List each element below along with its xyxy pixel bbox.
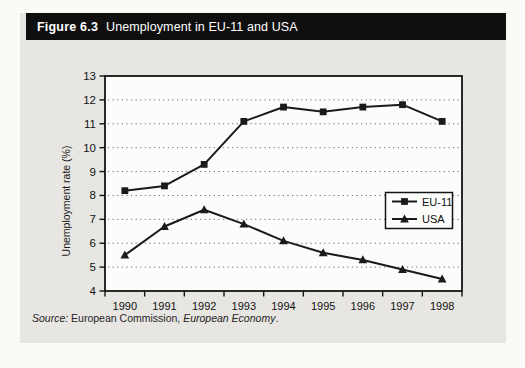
square-marker [280, 104, 287, 111]
square-marker [439, 118, 446, 125]
square-marker [401, 198, 408, 205]
square-marker [359, 104, 366, 111]
x-tick-label: 1990 [113, 300, 137, 312]
x-tick-label: 1992 [192, 300, 216, 312]
x-tick-label: 1998 [430, 300, 454, 312]
figure-panel: Figure 6.3 Unemployment in EU-11 and USA… [20, 13, 506, 343]
y-axis: 45678910111213 [83, 70, 105, 297]
y-tick-label: 6 [90, 237, 96, 249]
y-tick-label: 8 [90, 189, 96, 201]
source-journal: European Economy [183, 312, 275, 324]
legend-label: EU-11 [422, 196, 452, 208]
legend-label: USA [422, 213, 445, 225]
page: Figure 6.3 Unemployment in EU-11 and USA… [0, 0, 525, 368]
x-tick-label: 1996 [351, 300, 375, 312]
source-prefix: Source: [32, 312, 68, 324]
y-tick-label: 7 [90, 213, 96, 225]
chart-area: 4567891011121319901991199219931994199519… [20, 40, 506, 316]
source-note: Source: European Commission, European Ec… [32, 312, 278, 324]
square-marker [161, 182, 168, 189]
square-marker [399, 101, 406, 108]
x-axis: 199019911992199319941995199619971998 [105, 291, 462, 312]
y-tick-label: 11 [84, 118, 96, 130]
legend: EU-11USA [386, 193, 453, 229]
y-axis-title: Unemployment rate (%) [60, 146, 72, 257]
y-tick-label: 12 [83, 94, 96, 106]
x-tick-label: 1994 [271, 300, 295, 312]
line-chart: 4567891011121319901991199219931994199519… [20, 40, 506, 316]
source-middle: European Commission, [68, 312, 183, 324]
square-marker [240, 118, 247, 125]
square-marker [121, 187, 128, 194]
x-tick-label: 1991 [152, 300, 176, 312]
x-tick-label: 1995 [311, 300, 335, 312]
y-tick-label: 10 [83, 142, 96, 154]
y-tick-label: 5 [90, 261, 96, 273]
y-tick-label: 4 [90, 285, 97, 297]
x-tick-label: 1997 [390, 300, 414, 312]
figure-number: Figure 6.3 [37, 20, 98, 34]
y-tick-label: 13 [83, 70, 96, 82]
figure-title: Unemployment in EU-11 and USA [106, 20, 298, 34]
square-marker [320, 108, 327, 115]
square-marker [201, 161, 208, 168]
y-tick-label: 9 [90, 166, 96, 178]
figure-header-bar: Figure 6.3 Unemployment in EU-11 and USA [26, 13, 506, 40]
x-tick-label: 1993 [232, 300, 256, 312]
source-suffix: . [275, 312, 278, 324]
